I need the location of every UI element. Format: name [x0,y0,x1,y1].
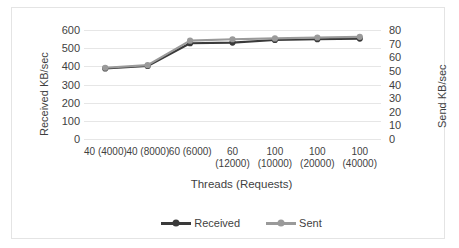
x-axis-category-labels: 40 (4000)40 (8000)60 (6000)60(12000)100(… [84,146,381,176]
x-axis-title: Threads (Requests) [12,178,459,190]
x-axis-tick-label: 40 (8000) [126,146,168,158]
y-axis-left-tick-label: 0 [74,134,80,144]
legend-item-sent[interactable]: Sent [266,217,322,229]
y-axis-right-tick-label: 80 [389,25,401,35]
legend-marker-icon [278,220,285,227]
y-axis-right-tick-label: 50 [389,66,401,76]
y-axis-left-tick-label: 600 [62,25,80,35]
y-axis-right-tick-label: 30 [389,93,401,103]
y-axis-right-tick-label: 60 [389,52,401,62]
x-axis-tick-label: 100(10000) [254,146,296,170]
x-axis-tick-label: 60 (6000) [169,146,211,158]
y-axis-right-tick-label: 0 [389,134,395,144]
legend-item-received[interactable]: Received [161,217,240,229]
y-axis-left-tick-label: 500 [62,43,80,53]
legend-label: Sent [299,217,322,229]
y-axis-left-title: Received KB/sec [38,52,50,136]
y-axis-right-tick-label: 20 [389,107,401,117]
y-axis-left-tick-label: 400 [62,61,80,71]
x-axis-tick-label: 60(12000) [211,146,253,170]
y-axis-right-title: Send KB/sec [436,64,448,128]
y-axis-right-ticks: 01020304050607080 [389,30,419,139]
x-axis-tick-label: 100(20000) [296,146,338,170]
data-point-sent [314,34,320,40]
data-point-sent [187,38,193,44]
x-axis-tick-label: 40 (4000) [84,146,126,158]
y-axis-left-tick-label: 100 [62,116,80,126]
data-point-sent [145,62,151,68]
y-axis-left-tick-label: 300 [62,80,80,90]
plot-area [84,30,381,139]
data-point-sent [102,65,108,71]
data-point-sent [272,35,278,41]
chart-legend: ReceivedSent [12,217,459,229]
legend-label: Received [194,217,240,229]
y-axis-left-tick-label: 200 [62,98,80,108]
legend-swatch-icon [161,222,191,225]
legend-swatch-icon [266,222,296,225]
data-point-sent [357,34,363,40]
y-axis-left-ticks: 0100200300400500600 [46,30,80,139]
y-axis-right-tick-label: 70 [389,39,401,49]
series-layer [84,30,381,139]
x-axis-tick-label: 100(40000) [339,146,381,170]
y-axis-right-tick-label: 40 [389,80,401,90]
chart-container: 0100200300400500600 01020304050607080 40… [11,7,445,239]
data-point-sent [229,36,235,42]
gridline [84,139,381,140]
legend-marker-icon [173,220,180,227]
y-axis-right-tick-label: 10 [389,120,401,130]
